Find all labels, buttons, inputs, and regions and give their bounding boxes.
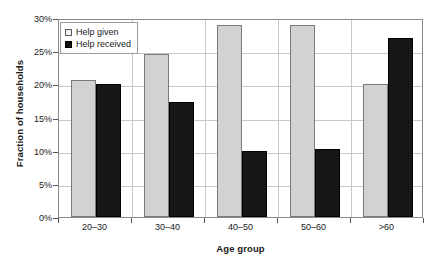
bar-help-received xyxy=(242,151,267,217)
bar-chart: Fraction of households 0%5%10%15%20%25%3… xyxy=(0,0,438,268)
gridline-vertical xyxy=(351,20,352,217)
legend-swatch-help-given-icon xyxy=(65,29,72,36)
bar-help-received xyxy=(96,84,121,217)
y-axis-tick-label: 20% xyxy=(18,80,52,90)
x-axis-title: Age group xyxy=(58,243,423,254)
bar-help-given xyxy=(144,54,169,217)
bar-help-given xyxy=(363,84,388,217)
y-axis-tick-label: 10% xyxy=(18,147,52,157)
bar-help-given xyxy=(71,80,96,217)
x-axis-tick-label: 20–30 xyxy=(82,222,107,232)
legend-item: Help received xyxy=(65,38,131,50)
bar-help-received xyxy=(388,38,413,217)
x-axis-tick-label: >60 xyxy=(379,222,394,232)
bar-help-given xyxy=(290,25,315,217)
y-axis-tick-label: 30% xyxy=(18,14,52,24)
x-axis-tick-label: 50–60 xyxy=(301,222,326,232)
y-axis-tick-label: 0% xyxy=(18,213,52,223)
legend-label: Help received xyxy=(76,39,131,49)
legend-item: Help given xyxy=(65,26,131,38)
bar-help-received xyxy=(315,149,340,217)
gridline-vertical xyxy=(278,20,279,217)
legend-label: Help given xyxy=(76,27,119,37)
x-axis-tick-labels: 20–3030–4040–5050–60>60 xyxy=(58,222,423,238)
gridline-vertical xyxy=(205,20,206,217)
x-axis-tick-mark xyxy=(423,218,424,223)
bar-help-given xyxy=(217,25,242,217)
y-axis-tick-label: 15% xyxy=(18,114,52,124)
x-axis-tick-label: 40–50 xyxy=(228,222,253,232)
y-axis-tick-label: 5% xyxy=(18,180,52,190)
chart-legend: Help givenHelp received xyxy=(60,22,138,54)
x-axis-tick-label: 30–40 xyxy=(155,222,180,232)
y-axis-tick-label: 25% xyxy=(18,47,52,57)
bar-help-received xyxy=(169,102,194,217)
y-axis-tick-labels: 0%5%10%15%20%25%30% xyxy=(18,19,52,218)
legend-swatch-help-received-icon xyxy=(65,41,72,48)
